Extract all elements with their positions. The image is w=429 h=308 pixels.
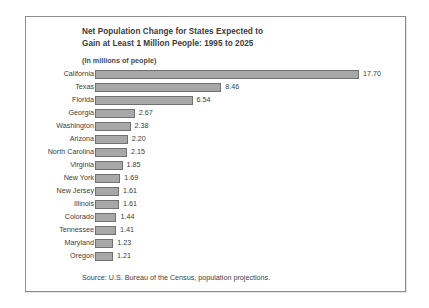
- bar-row: Florida6.54: [26, 94, 407, 107]
- bar-row: Virginia1.85: [26, 159, 407, 172]
- bar-category-label: Florida: [0, 95, 94, 104]
- bar-category-label: California: [0, 69, 94, 78]
- bar: [95, 70, 359, 79]
- bar: [95, 109, 135, 118]
- bar-category-label: New Jersey: [0, 186, 94, 195]
- bar-value-label: 1.44: [120, 212, 134, 221]
- bar-value-label: 1.23: [117, 238, 131, 247]
- chart-title-line-2: Gain at Least 1 Million People: 1995 to …: [82, 38, 382, 50]
- bar-row: Texas8.46: [26, 81, 407, 94]
- chart-frame: Net Population Change for States Expecte…: [25, 16, 406, 292]
- bar-value-label: 2.38: [135, 121, 149, 130]
- bar-category-label: Colorado: [0, 212, 94, 221]
- bar-category-label: Texas: [0, 82, 94, 91]
- bar-row: Colorado1.44: [26, 211, 407, 224]
- bar: [95, 239, 113, 248]
- chart-source-note: Source: U.S. Bureau of the Census, popul…: [82, 273, 270, 282]
- bar-value-label: 1.21: [117, 251, 131, 260]
- bar-category-label: Oregon: [0, 251, 94, 260]
- bar-category-label: Tennessee: [0, 225, 94, 234]
- bar-row: Georgia2.67: [26, 107, 407, 120]
- chart-title: Net Population Change for States Expecte…: [82, 26, 382, 49]
- bar: [95, 200, 119, 209]
- bar-value-label: 2.20: [132, 134, 146, 143]
- bar-row: Washington2.38: [26, 120, 407, 133]
- bar: [95, 226, 116, 235]
- bar-category-label: Illinois: [0, 199, 94, 208]
- bar-category-label: Maryland: [0, 238, 94, 247]
- bar-category-label: Georgia: [0, 108, 94, 117]
- bar: [95, 83, 221, 92]
- bar: [95, 161, 123, 170]
- bar: [95, 174, 120, 183]
- bar-row: Maryland1.23: [26, 237, 407, 250]
- bar-value-label: 6.54: [197, 95, 211, 104]
- chart-units-note: (In millions of people): [82, 56, 156, 65]
- bar-value-label: 2.15: [131, 147, 145, 156]
- bar-category-label: North Carolina: [0, 147, 94, 156]
- bar-category-label: Washington: [0, 121, 94, 130]
- bar: [95, 213, 116, 222]
- chart-plot-area: California17.70Texas8.46Florida6.54Georg…: [26, 68, 407, 263]
- bar: [95, 96, 193, 105]
- bar-row: Oregon1.21: [26, 250, 407, 263]
- bar-category-label: Virginia: [0, 160, 94, 169]
- bar: [95, 135, 128, 144]
- bar-row: Arizona2.20: [26, 133, 407, 146]
- chart-title-line-1: Net Population Change for States Expecte…: [82, 26, 382, 38]
- bar-row: New Jersey1.61: [26, 185, 407, 198]
- bar-category-label: Arizona: [0, 134, 94, 143]
- bar-value-label: 8.46: [225, 82, 239, 91]
- bar-row: Tennessee1.41: [26, 224, 407, 237]
- bar-value-label: 1.61: [123, 199, 137, 208]
- bar: [95, 187, 119, 196]
- bar-row: North Carolina2.15: [26, 146, 407, 159]
- bar-row: New York1.69: [26, 172, 407, 185]
- bar-row: California17.70: [26, 68, 407, 81]
- bar: [95, 148, 127, 157]
- bar-value-label: 2.67: [139, 108, 153, 117]
- bar-row: Illinois1.61: [26, 198, 407, 211]
- bar-value-label: 1.69: [124, 173, 138, 182]
- bar-category-label: New York: [0, 173, 94, 182]
- bar: [95, 252, 113, 261]
- bar-value-label: 1.85: [127, 160, 141, 169]
- bar-value-label: 1.61: [123, 186, 137, 195]
- bar-value-label: 1.41: [120, 225, 134, 234]
- bar-value-label: 17.70: [363, 69, 381, 78]
- bar: [95, 122, 131, 131]
